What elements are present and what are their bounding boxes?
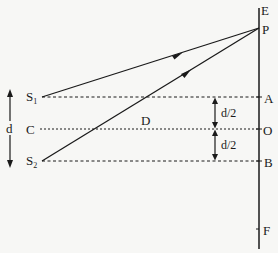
half-d-top-down-icon xyxy=(212,122,218,129)
double-slit-diagram: E P A O B F S1 C S2 d D d/2 d/2 xyxy=(0,0,278,253)
label-b: B xyxy=(264,155,273,170)
d-arrow-up-icon xyxy=(7,89,13,97)
label-p: P xyxy=(262,22,269,37)
half-d-top-up-icon xyxy=(212,98,218,105)
half-d-bottom-down-icon xyxy=(212,154,218,161)
label-c: C xyxy=(26,122,35,137)
ray-s2-arrow-icon xyxy=(181,70,191,79)
label-d: d xyxy=(6,121,13,136)
label-o: O xyxy=(263,123,272,138)
ray-s1-p xyxy=(42,28,259,97)
label-s1: S1 xyxy=(26,89,37,106)
label-f: F xyxy=(263,223,270,238)
label-a: A xyxy=(264,91,274,106)
label-half-d-top: d/2 xyxy=(221,106,236,120)
label-distance-d: D xyxy=(141,113,150,128)
half-d-bottom-up-icon xyxy=(212,130,218,137)
label-s2: S2 xyxy=(26,153,37,170)
d-arrow-down-icon xyxy=(7,160,13,168)
label-half-d-bottom: d/2 xyxy=(221,138,236,152)
diagram-canvas: E P A O B F S1 C S2 d D d/2 d/2 xyxy=(0,0,278,253)
label-e: E xyxy=(261,3,269,18)
